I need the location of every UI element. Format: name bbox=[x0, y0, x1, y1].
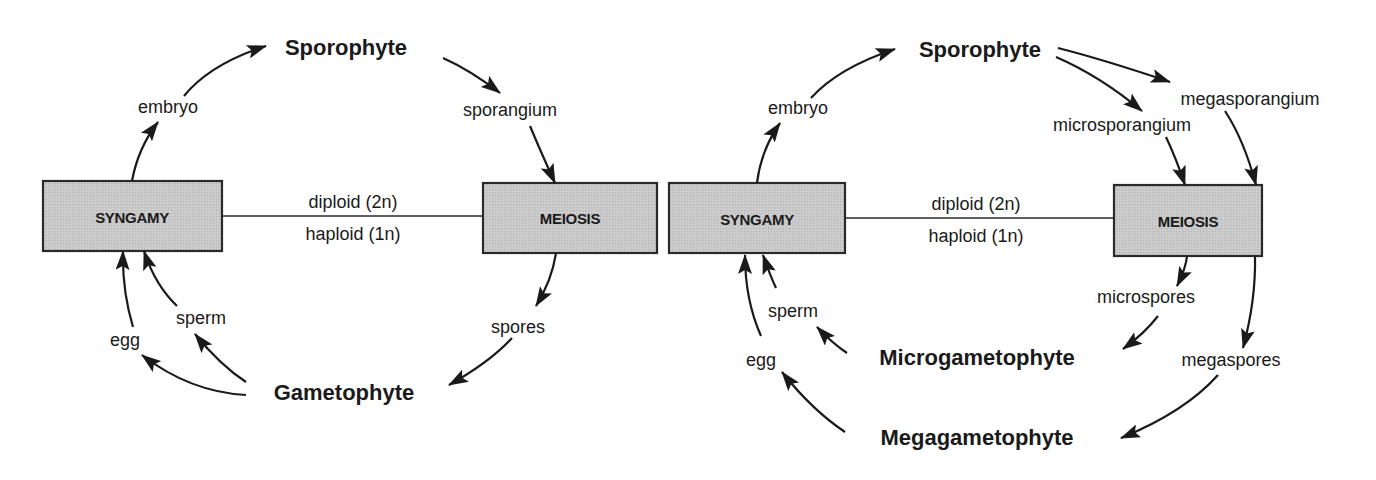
sporophyte-label: Sporophyte bbox=[919, 37, 1041, 62]
egg-label: egg bbox=[110, 330, 140, 350]
diploid-label: diploid (2n) bbox=[931, 194, 1020, 214]
diploid-label: diploid (2n) bbox=[308, 192, 397, 212]
life-cycle-diagrams: SYNGAMY MEIOSIS diploid (2n) haploid (1n… bbox=[0, 0, 1376, 480]
heterosporous-life-cycle: SYNGAMY MEIOSIS diploid (2n) haploid (1n… bbox=[669, 37, 1320, 450]
arrow-sporophyte-to-microsporangium bbox=[1056, 57, 1142, 111]
arrow-microspores-to-microgametophyte bbox=[1123, 316, 1158, 349]
homosporous-life-cycle: SYNGAMY MEIOSIS diploid (2n) haploid (1n… bbox=[43, 35, 657, 405]
meiosis-label: MEIOSIS bbox=[540, 210, 601, 227]
arrow-microgametophyte-to-sperm bbox=[817, 327, 847, 353]
haploid-label: haploid (1n) bbox=[928, 226, 1023, 246]
sporophyte-label: Sporophyte bbox=[285, 35, 407, 60]
sporangium-label: sporangium bbox=[463, 100, 557, 120]
syngamy-label: SYNGAMY bbox=[95, 209, 169, 226]
arrow-gametophyte-to-egg bbox=[142, 355, 246, 395]
arrow-meiosis-to-megaspores bbox=[1243, 256, 1255, 348]
syngamy-label: SYNGAMY bbox=[720, 211, 794, 228]
arrow-embryo-to-sporophyte bbox=[184, 46, 266, 96]
megasporangium-label: megasporangium bbox=[1180, 89, 1319, 109]
arrow-meiosis-to-spores bbox=[536, 253, 556, 306]
arrow-egg-to-syngamy bbox=[745, 255, 761, 336]
spores-label: spores bbox=[491, 317, 545, 337]
embryo-label: embryo bbox=[768, 98, 828, 118]
haploid-label: haploid (1n) bbox=[305, 224, 400, 244]
arrow-sperm-to-syngamy bbox=[144, 251, 177, 306]
embryo-label: embryo bbox=[138, 97, 198, 117]
arrow-megagametophyte-to-egg bbox=[782, 372, 845, 432]
arrow-sporangium-to-meiosis bbox=[530, 126, 555, 183]
arrow-sperm-to-syngamy bbox=[763, 255, 776, 288]
arrow-megaspores-to-megagametophyte bbox=[1121, 375, 1218, 438]
arrow-embryo-to-sporophyte bbox=[811, 49, 895, 98]
microsporangium-label: microsporangium bbox=[1053, 115, 1191, 135]
arrow-egg-to-syngamy bbox=[123, 251, 133, 327]
megaspores-label: megaspores bbox=[1181, 350, 1280, 370]
microgametophyte-label: Microgametophyte bbox=[879, 345, 1075, 370]
arrow-meiosis-to-microspores bbox=[1177, 256, 1187, 286]
arrow-gametophyte-to-sperm bbox=[195, 334, 246, 382]
gametophyte-label: Gametophyte bbox=[274, 380, 415, 405]
arrow-spores-to-gametophyte bbox=[449, 338, 512, 385]
meiosis-box: MEIOSIS bbox=[483, 183, 657, 253]
syngamy-box: SYNGAMY bbox=[43, 181, 222, 251]
sperm-label: sperm bbox=[768, 301, 818, 321]
arrow-syngamy-to-embryo bbox=[132, 122, 158, 181]
microspores-label: microspores bbox=[1097, 287, 1195, 307]
megagametophyte-label: Megagametophyte bbox=[880, 425, 1073, 450]
meiosis-box: MEIOSIS bbox=[1114, 185, 1262, 256]
arrow-microsporangium-to-meiosis bbox=[1166, 137, 1185, 185]
sperm-label: sperm bbox=[176, 308, 226, 328]
meiosis-label: MEIOSIS bbox=[1158, 213, 1219, 230]
egg-label: egg bbox=[746, 350, 776, 370]
syngamy-box: SYNGAMY bbox=[669, 183, 845, 253]
arrow-sporophyte-to-sporangium bbox=[443, 58, 500, 93]
arrow-syngamy-to-embryo bbox=[757, 123, 780, 183]
arrow-megasporangium-to-meiosis bbox=[1225, 111, 1256, 185]
